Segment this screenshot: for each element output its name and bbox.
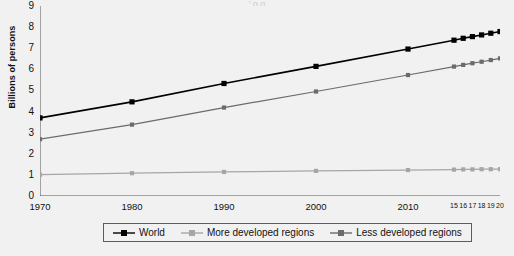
plot-svg xyxy=(40,6,500,196)
y-axis-tick-2: 2 xyxy=(18,148,34,159)
legend-marker-world xyxy=(113,228,135,238)
legend-label-less-developed-regions: Less developed regions xyxy=(356,227,462,238)
x-axis-tick-2000: 2000 xyxy=(299,201,333,212)
plot-area xyxy=(40,6,500,196)
x-axis-tick-2010: 2010 xyxy=(391,201,425,212)
y-axis-tick-3: 3 xyxy=(18,127,34,138)
y-axis-tick-0: 0 xyxy=(18,190,34,201)
legend-marker-more-developed-regions xyxy=(181,228,203,238)
x-axis-tick-1970: 1970 xyxy=(23,201,57,212)
y-axis-tick-5: 5 xyxy=(18,84,34,95)
x-axis-tick-1990: 1990 xyxy=(207,201,241,212)
legend-item-more-developed-regions[interactable]: More developed regions xyxy=(181,227,314,238)
legend-item-world[interactable]: World xyxy=(113,227,165,238)
y-axis-tick-8: 8 xyxy=(18,21,34,32)
population-line-chart: ' o o Billions of persons 0123456789 197… xyxy=(0,0,514,256)
legend-label-world: World xyxy=(139,227,165,238)
y-axis-tick-4: 4 xyxy=(18,106,34,117)
y-axis-tick-6: 6 xyxy=(18,63,34,74)
legend-label-more-developed-regions: More developed regions xyxy=(207,227,314,238)
y-axis-tick-9: 9 xyxy=(18,0,34,11)
legend-marker-less-developed-regions xyxy=(330,228,352,238)
chart-legend: World More developed regions Less develo… xyxy=(103,223,472,242)
x-axis-tick-20: 20 xyxy=(494,202,507,209)
legend-item-less-developed-regions[interactable]: Less developed regions xyxy=(330,227,462,238)
x-axis-tick-1980: 1980 xyxy=(115,201,149,212)
y-axis-tick-1: 1 xyxy=(18,169,34,180)
y-axis-tick-7: 7 xyxy=(18,42,34,53)
y-axis-label: Billions of persons xyxy=(7,0,17,137)
